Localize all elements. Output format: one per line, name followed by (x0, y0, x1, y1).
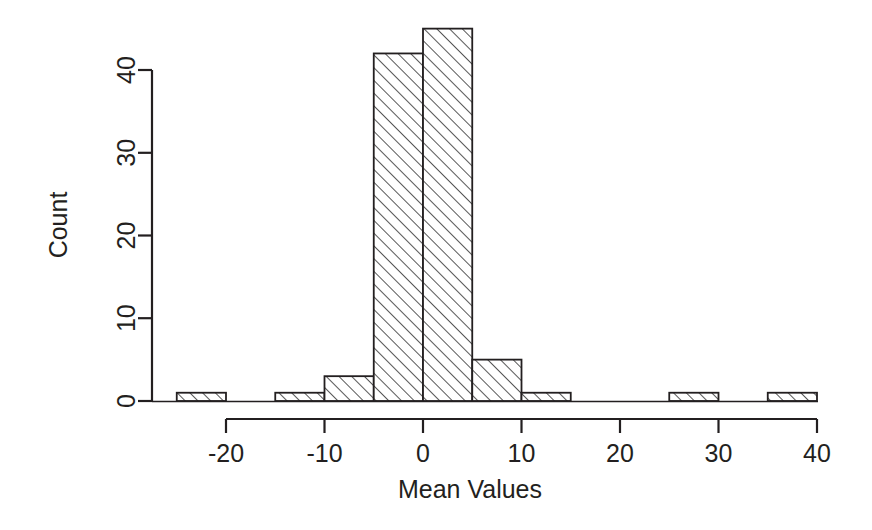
x-tick-labels: -20 -10 0 10 20 30 40 (208, 439, 831, 467)
x-tick-label-20: 20 (606, 439, 634, 467)
histogram-bar (275, 393, 324, 401)
histogram-bar (768, 393, 817, 401)
histogram-bar (669, 393, 718, 401)
x-axis (226, 419, 817, 433)
y-axis (138, 70, 152, 401)
x-tick-label--10: -10 (306, 439, 342, 467)
histogram-bar (472, 360, 521, 401)
histogram-bar (374, 53, 423, 401)
x-tick-label--20: -20 (208, 439, 244, 467)
y-tick-label-40: 40 (112, 56, 140, 84)
x-tick-label-0: 0 (416, 439, 430, 467)
y-tick-label-20: 20 (112, 222, 140, 250)
histogram-bar (423, 29, 472, 401)
x-tick-label-40: 40 (803, 439, 831, 467)
bars-group (177, 29, 817, 401)
y-tick-labels: 40 30 20 10 0 (112, 56, 140, 408)
histogram-bar (177, 393, 226, 401)
histogram-bar (522, 393, 571, 401)
x-tick-label-30: 30 (705, 439, 733, 467)
histogram-bar (325, 376, 374, 401)
plot-canvas: 40 30 20 10 0 Count -20 -10 0 10 (0, 0, 872, 530)
histogram-figure: 40 30 20 10 0 Count -20 -10 0 10 (0, 0, 872, 530)
y-tick-label-0: 0 (112, 394, 140, 408)
y-tick-label-30: 30 (112, 139, 140, 167)
x-tick-label-10: 10 (508, 439, 536, 467)
y-axis-title: Count (44, 192, 72, 259)
x-axis-title: Mean Values (398, 475, 542, 503)
y-tick-label-10: 10 (112, 304, 140, 332)
